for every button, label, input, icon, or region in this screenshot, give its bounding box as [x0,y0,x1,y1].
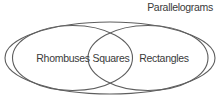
parallelograms-label: Parallelograms [147,2,213,13]
squares-label: Squares [92,53,129,64]
rhombuses-label: Rhombuses [36,53,89,64]
rectangles-label: Rectangles [139,53,189,64]
venn-diagram: Parallelograms Rhombuses Squares Rectang… [0,0,221,103]
